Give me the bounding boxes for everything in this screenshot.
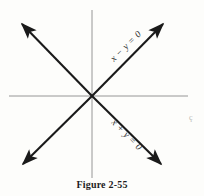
scan-artifact-mark: ç <box>189 114 192 122</box>
ray-upper-right <box>92 24 163 96</box>
coordinate-plot <box>0 0 204 196</box>
ray-lower-left <box>23 96 92 164</box>
ray-upper-left <box>22 24 92 96</box>
figure-caption: Figure 2-55 <box>0 179 204 190</box>
figure-2-55: x − y = 0 x + y = 0 Figure 2-55 ç <box>0 0 204 196</box>
